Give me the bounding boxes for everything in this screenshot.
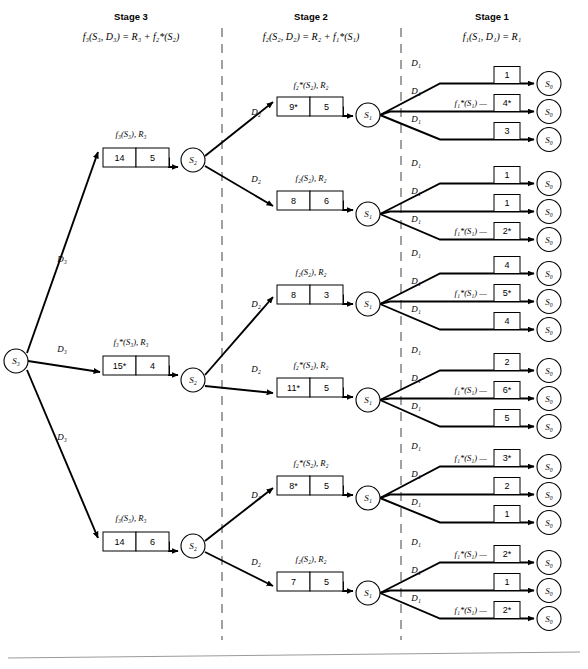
node-s0-4-0-label: S₀ bbox=[545, 462, 553, 472]
decision-label-d1-3-2: D₁ bbox=[410, 401, 421, 411]
box-stage1-5-0-value: 2* bbox=[503, 549, 512, 559]
decision-label-d1-0-0: D₁ bbox=[410, 58, 421, 68]
fstar-label-5-2: f₁*(S₁) — bbox=[455, 605, 488, 615]
edge-stage1-4-1 bbox=[380, 495, 534, 499]
box-stage1-5-1-value: 1 bbox=[504, 577, 509, 587]
node-s0-2-2: S₀ bbox=[537, 318, 561, 342]
decision-label-d1-5-0: D₁ bbox=[410, 537, 421, 547]
box-stage1-1-2-value: 2* bbox=[503, 226, 512, 236]
node-s0-4-0: S₀ bbox=[537, 455, 561, 479]
decision-label-d1-5-1: D₁ bbox=[410, 565, 421, 575]
node-s0-0-1-label: S₀ bbox=[545, 107, 553, 117]
node-s0-5-0: S₀ bbox=[537, 551, 561, 575]
node-s0-2-1: S₀ bbox=[537, 290, 561, 314]
decision-label-d2-4: D₂ bbox=[250, 490, 261, 500]
node-s1-5-label: S₁ bbox=[364, 588, 372, 598]
box-stage1-5-2-value: 2* bbox=[503, 605, 512, 615]
box-stage2-3-cell-0-value: 11* bbox=[287, 383, 300, 393]
connector-stage3-0 bbox=[169, 158, 178, 168]
decision-label-d1-3-0: D₁ bbox=[410, 345, 421, 355]
box-stage1-5-1: 1 bbox=[494, 574, 520, 591]
stage-header-stage2: Stage 2f₂(S₂, D₂) = R₂ + f₁*(S₁) bbox=[263, 11, 360, 43]
box-stage1-5-2: 2* bbox=[494, 602, 520, 619]
box-stage3-1: 15*4 bbox=[103, 356, 169, 375]
stage3-title: Stage 3 bbox=[114, 11, 148, 22]
box-stage3-2-cell-1-value: 6 bbox=[150, 537, 155, 547]
node-s2-0-label: S₂ bbox=[189, 155, 197, 165]
box-stage2-5-cell-0-value: 7 bbox=[291, 577, 296, 587]
box-stage2-4-cell-1-value: 5 bbox=[324, 481, 329, 491]
box-stage1-0-1-value: 4* bbox=[503, 98, 512, 108]
box-stage3-0: 145 bbox=[103, 148, 169, 167]
edge-stage2-5 bbox=[205, 552, 273, 586]
fstar-label-2-1: f₁*(S₁) — bbox=[455, 288, 488, 298]
box-stage2-1-cell-0-value: 8 bbox=[291, 196, 296, 206]
node-s2-1-label: S₂ bbox=[189, 375, 197, 385]
box-stage1-3-2-value: 5 bbox=[504, 413, 509, 423]
decision-label-d1-0-1: D₁ bbox=[410, 86, 421, 96]
node-s1-0-label: S₁ bbox=[364, 110, 372, 120]
node-s1-5: S₁ bbox=[356, 581, 380, 605]
box-stage2-4-cell-0-value: 8* bbox=[289, 481, 298, 491]
node-s1-1-label: S₁ bbox=[364, 209, 372, 219]
node-s0-4-2: S₀ bbox=[537, 511, 561, 535]
node-s0-4-1: S₀ bbox=[537, 483, 561, 507]
box-stage2-1: 86 bbox=[277, 191, 343, 210]
decision-label-d1-4-0: D₁ bbox=[410, 441, 421, 451]
node-s1-3-label: S₁ bbox=[364, 395, 372, 405]
box-stage1-5-0: 2* bbox=[494, 546, 520, 563]
box-stage2-0-cell-1-value: 5 bbox=[324, 102, 329, 112]
decision-label-d1-1-2: D₁ bbox=[410, 214, 421, 224]
connector-stage3-2 bbox=[169, 542, 178, 552]
node-s0-0-2-label: S₀ bbox=[545, 135, 553, 145]
decision-label-d2-0: D₂ bbox=[250, 107, 261, 117]
fstar-label-1-2: f₁*(S₁) — bbox=[455, 226, 488, 236]
box-stage3-1-cell-1-value: 4 bbox=[150, 361, 155, 371]
box-stage2-2-cell-0-value: 8 bbox=[291, 290, 296, 300]
connector-stage2-1 bbox=[343, 201, 353, 211]
stage1-formula: f₁(S₁, D₁) = R₁ bbox=[463, 31, 521, 43]
node-s1-0: S₁ bbox=[356, 103, 380, 127]
box-stage1-1-1: 1 bbox=[494, 195, 520, 212]
box-stage1-3-1: 6* bbox=[494, 382, 520, 399]
decision-label-d1-2-2: D₁ bbox=[410, 304, 421, 314]
box-stage2-2: 83 bbox=[277, 285, 343, 304]
caption-stage2-0: f₂*(S₂), R₂ bbox=[293, 80, 328, 90]
edge-stage2-3 bbox=[205, 386, 273, 393]
box-stage1-4-0: 3* bbox=[494, 450, 520, 467]
caption-stage2-1: f₂(S₂), R₂ bbox=[296, 173, 327, 183]
box-stage2-1-cell-1-value: 6 bbox=[324, 196, 329, 206]
box-stage1-1-0: 1 bbox=[494, 167, 520, 184]
box-stage1-4-1: 2 bbox=[494, 478, 520, 495]
node-s0-0-0-label: S₀ bbox=[545, 79, 553, 89]
node-s0-3-2: S₀ bbox=[537, 415, 561, 439]
decision-label-d1-1-0: D₁ bbox=[410, 158, 421, 168]
box-stage1-0-2: 3 bbox=[494, 123, 520, 140]
box-stage1-1-0-value: 1 bbox=[504, 170, 509, 180]
caption-stage2-3: f₂*(S₂), R₂ bbox=[293, 360, 328, 370]
box-stage1-0-2-value: 3 bbox=[504, 126, 509, 136]
connector-stage2-0 bbox=[343, 107, 353, 117]
node-s1-3: S₁ bbox=[356, 388, 380, 412]
connector-stage3-1 bbox=[169, 366, 178, 376]
node-s1-2-label: S₁ bbox=[364, 299, 372, 309]
edge-stage3-1 bbox=[28, 361, 100, 372]
stage-header-stage3: Stage 3f₃(S₃, D₃) = R₃ + f₂*(S₂) bbox=[83, 11, 180, 43]
connector-stage2-5 bbox=[343, 582, 353, 592]
fstar-label-0-1: f₁*(S₁) — bbox=[455, 98, 488, 108]
edge-stage2-4 bbox=[205, 488, 273, 541]
connector-stage2-3 bbox=[343, 388, 353, 398]
box-stage1-2-0: 4 bbox=[494, 257, 520, 274]
node-s1-4: S₁ bbox=[356, 486, 380, 510]
decision-label-d2-2: D₂ bbox=[250, 299, 261, 309]
box-stage1-2-1: 5* bbox=[494, 285, 520, 302]
edge-stage2-0 bbox=[205, 102, 273, 156]
box-stage1-3-0: 2 bbox=[494, 354, 520, 371]
caption-stage3-0: f₃(S₃), R₃ bbox=[116, 129, 147, 139]
diagram-canvas: 14515*41469*514*386112*8345*411*526*58*5… bbox=[0, 0, 588, 669]
box-stage2-2-cell-1-value: 3 bbox=[324, 290, 329, 300]
connector-stage2-4 bbox=[343, 486, 353, 496]
decision-label-d1-4-1: D₁ bbox=[410, 469, 421, 479]
node-s2-0: S₂ bbox=[181, 148, 205, 172]
node-s0-5-2-label: S₀ bbox=[545, 614, 553, 624]
